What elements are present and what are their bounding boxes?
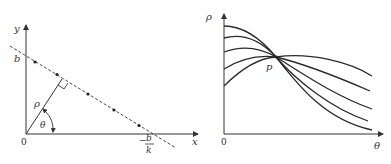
rho-axis-label: ρ [205,11,212,22]
left-panel: y b ρ θ 0 x − b k [10,23,198,155]
curve-2 [224,36,368,121]
theta-axis-label: θ [374,140,380,151]
theta-label: θ [40,120,46,130]
x-intercept-denominator: k [146,145,151,155]
y-axis-label: y [13,23,20,34]
right-panel: ρ p 0 θ [205,11,383,151]
theta-arc-start-arrow [43,109,45,111]
figure-canvas: y b ρ θ 0 x − b k ρ p 0 θ [0,0,391,164]
theta-arc [45,111,53,132]
hough-transform-figure: y b ρ θ 0 x − b k ρ p 0 θ [0,0,391,164]
intersection-point [275,56,278,59]
curve-4 [224,56,370,91]
x-axis-label: x [192,136,198,147]
origin-label: 0 [21,137,27,147]
x-intercept-fraction: − b k [139,133,154,155]
sinusoid-curves [224,26,372,130]
y-intercept-label: b [14,53,20,64]
rho-label: ρ [33,98,40,109]
right-angle-marker [58,83,68,89]
x-intercept-numerator: b [146,133,152,143]
intersection-label: p [266,61,273,72]
origin-label-right: 0 [221,137,227,147]
curve-1 [224,26,372,130]
